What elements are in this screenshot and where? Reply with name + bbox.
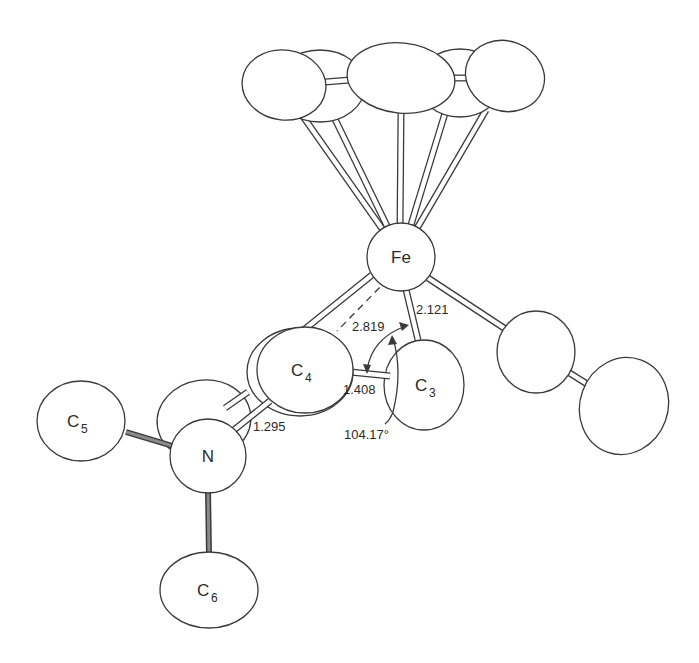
c4-atom: C 4 bbox=[257, 327, 353, 413]
c5-label: C bbox=[67, 412, 79, 431]
bond-angle: 104.17° bbox=[344, 427, 389, 442]
fe-atom: Fe bbox=[367, 223, 435, 291]
c6-atom: C 6 bbox=[160, 552, 258, 628]
ligand-atom-right-2 bbox=[566, 345, 682, 467]
c5-subscript: 5 bbox=[81, 422, 88, 436]
cp-fe-bonds bbox=[302, 110, 486, 230]
cp-ring bbox=[238, 29, 555, 125]
ligand-atom-right-1 bbox=[497, 311, 575, 393]
fe-c3-distance: 2.121 bbox=[416, 302, 449, 317]
c6-label: C bbox=[197, 581, 209, 600]
molecule-diagram: Fe C 3 C 4 N C bbox=[0, 0, 699, 663]
n-label: N bbox=[202, 447, 214, 466]
c4-subscript: 4 bbox=[305, 371, 312, 385]
n-atom: N bbox=[170, 419, 246, 493]
n-c6-bond bbox=[208, 490, 209, 555]
c3-c4-distance: 1.408 bbox=[343, 382, 376, 397]
fe-label: Fe bbox=[391, 248, 411, 267]
c4-label: C bbox=[291, 361, 303, 380]
c3-label: C bbox=[415, 376, 427, 395]
c3-subscript: 3 bbox=[429, 386, 436, 400]
c4-n-distance: 1.295 bbox=[253, 419, 286, 434]
c6-subscript: 6 bbox=[211, 591, 218, 605]
c5-atom: C 5 bbox=[37, 381, 125, 461]
fe-c4-distance: 2.819 bbox=[352, 319, 385, 334]
